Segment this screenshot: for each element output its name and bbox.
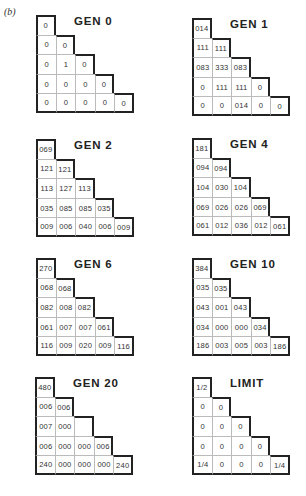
grid-row: 006000000006 <box>35 436 133 456</box>
grid-row: 069 <box>36 139 134 159</box>
grid-cell: 0 <box>231 416 251 436</box>
grid-cell: 020 <box>75 336 95 356</box>
grid-row: 00 <box>36 35 134 55</box>
grid-row: 00 <box>192 397 290 417</box>
grid-cell: 0 <box>36 93 56 113</box>
grid-cell: 480 <box>35 377 55 397</box>
grid-row: 094094 <box>192 158 290 178</box>
grid-cell: 003 <box>251 336 271 356</box>
grid-panel-gen-4: GEN 418109409410403010406902602606906101… <box>192 138 306 250</box>
grid-cell: 116 <box>36 336 56 356</box>
grid-row: 181 <box>192 138 290 158</box>
grid-cell: 1/2 <box>192 377 212 397</box>
grid-cell: 0 <box>192 416 212 436</box>
grid-cell: 061 <box>95 317 115 337</box>
grid-row: 0001400 <box>192 96 290 116</box>
grid-cell: 006 <box>56 217 76 237</box>
grid-cell: 003 <box>212 336 232 356</box>
grid-cell: 043 <box>231 297 251 317</box>
grid-row: 113127113 <box>36 178 134 198</box>
grid-row: 1/2 <box>192 377 290 397</box>
grid-cell: 061 <box>36 317 56 337</box>
grid-row: 009006040006009 <box>36 217 134 237</box>
grid-row: 01111110 <box>192 77 290 97</box>
grid-cell: 001 <box>212 297 232 317</box>
grid-cell: 026 <box>212 197 232 217</box>
grid-row: 240000000000240 <box>35 455 133 475</box>
grid-row: 0 <box>36 15 134 35</box>
grid-row: 384 <box>192 258 290 278</box>
grid-cell: 000 <box>231 317 251 337</box>
grid-cell: 0 <box>75 74 95 94</box>
grid-cell: 1 <box>56 54 76 74</box>
grid-cell: 0 <box>231 455 251 475</box>
grid-cell: 0 <box>251 455 271 475</box>
grid-cell: 0 <box>75 93 95 113</box>
grid-cell: 0 <box>36 15 56 35</box>
grid-cell: 068 <box>56 278 76 298</box>
triangular-grid: 2700680680820080820610070070611160090200… <box>36 258 134 356</box>
grid-row: 061007007061 <box>36 317 134 337</box>
grid-cell: 0 <box>36 35 56 55</box>
triangular-grid: 4800060060070000060000000062400000000002… <box>35 377 133 475</box>
grid-panel-limit: LIMIT1/20000000001/40001/4 <box>192 377 306 489</box>
grid-panel-gen-1: GEN 1014111111083333083011111100001400 <box>192 18 306 130</box>
grid-cell: 240 <box>113 455 133 475</box>
grid-cell: 0 <box>251 96 271 116</box>
grid-cell: 104 <box>231 177 251 197</box>
grid-cell: 069 <box>192 197 212 217</box>
grid-row: 069026026069 <box>192 197 290 217</box>
grid-cell: 0 <box>251 436 271 456</box>
grid-cell: 009 <box>56 336 76 356</box>
grid-row: 061012036012061 <box>192 216 290 236</box>
grid-cell: 0 <box>95 93 115 113</box>
grid-cell: 0 <box>212 436 232 456</box>
grid-row: 014 <box>192 18 290 38</box>
grid-cell: 113 <box>75 178 95 198</box>
grid-cell: 007 <box>75 317 95 337</box>
grid-cell: 0 <box>114 93 134 113</box>
grid-cell: 000 <box>55 436 75 456</box>
grid-cell: 116 <box>114 336 134 356</box>
grid-cell: 069 <box>251 197 271 217</box>
grid-cell: 036 <box>231 216 251 236</box>
grid-cell: 0 <box>231 436 251 456</box>
grid-cell: 186 <box>270 336 290 356</box>
grid-cell: 006 <box>95 217 115 237</box>
grid-cell: 000 <box>212 317 232 337</box>
grid-cell: 007 <box>35 416 55 436</box>
grid-cell: 030 <box>212 177 232 197</box>
grid-panel-gen-0: GEN 0000010000000000 <box>36 15 166 127</box>
grid-cell: 111 <box>192 38 212 58</box>
grid-cell: 009 <box>36 217 56 237</box>
grid-cell: 111 <box>212 77 232 97</box>
grid-cell: 068 <box>36 278 56 298</box>
grid-cell: 094 <box>212 158 232 178</box>
triangular-grid: 1/20000000001/40001/4 <box>192 377 290 475</box>
grid-row: 010 <box>36 54 134 74</box>
grid-row: 006006 <box>35 397 133 417</box>
grid-cell: 113 <box>36 178 56 198</box>
grid-cell: 006 <box>55 397 75 417</box>
grid-panel-gen-2: GEN 206912112111312711303508508503500900… <box>36 139 166 251</box>
grid-cell: 000 <box>74 455 94 475</box>
grid-cell: 0 <box>192 397 212 417</box>
grid-cell: 186 <box>192 336 212 356</box>
grid-row: 111111 <box>192 38 290 58</box>
grid-row: 000 <box>192 416 290 436</box>
grid-cell: 083 <box>231 57 251 77</box>
grid-cell: 270 <box>36 258 56 278</box>
grid-cell: 0 <box>36 54 56 74</box>
grid-panel-gen-6: GEN 627006806808200808206100700706111600… <box>36 258 166 370</box>
grid-cell: 005 <box>231 336 251 356</box>
grid-cell: 012 <box>212 216 232 236</box>
grid-cell: 006 <box>35 436 55 456</box>
grid-cell: 082 <box>75 297 95 317</box>
grid-cell: 0 <box>270 96 290 116</box>
grid-cell: 035 <box>36 198 56 218</box>
grid-cell: 0 <box>192 436 212 456</box>
grid-row: 116009020009116 <box>36 336 134 356</box>
grid-cell: 181 <box>192 138 212 158</box>
triangular-grid: 014111111083333083011111100001400 <box>192 18 290 116</box>
grid-cell: 240 <box>35 455 55 475</box>
